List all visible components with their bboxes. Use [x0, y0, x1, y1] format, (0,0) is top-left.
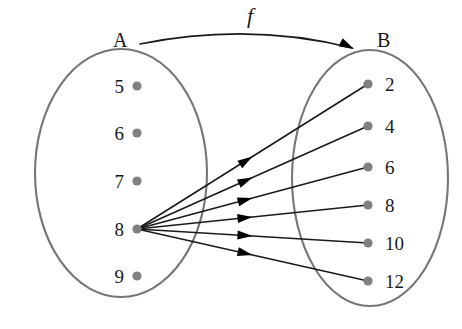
element-dot-a	[132, 81, 141, 90]
mapping-arrowhead	[237, 213, 253, 224]
element-dot-b	[363, 121, 372, 130]
element-label-b: 6	[385, 158, 395, 177]
element-dot-a	[132, 224, 141, 233]
mapping-arrowhead	[237, 153, 254, 169]
element-label-a: 5	[115, 77, 125, 96]
element-dot-a	[132, 271, 141, 280]
function-arrow-layer	[140, 34, 356, 53]
element-label-b: 12	[385, 272, 404, 291]
mapping-lines-layer	[137, 84, 368, 281]
mapping-arrowhead	[237, 231, 253, 241]
set-outline-b	[292, 50, 448, 306]
function-arrowhead	[339, 38, 356, 53]
element-dot-a	[132, 128, 141, 137]
element-label-a: 7	[115, 172, 125, 191]
mapping-arrowhead	[237, 173, 254, 187]
function-name-label: f	[247, 5, 253, 27]
element-label-a: 9	[115, 267, 125, 286]
set-label-b: B	[377, 30, 390, 50]
element-dot-a	[132, 176, 141, 185]
element-label-a: 6	[115, 124, 125, 143]
element-label-b: 10	[385, 234, 404, 253]
element-label-b: 4	[385, 117, 395, 136]
function-mapping-diagram: AB5678924681012f	[0, 0, 462, 329]
element-label-a: 8	[115, 220, 125, 239]
mapping-arrowhead	[237, 247, 254, 259]
element-dot-b	[363, 238, 372, 247]
mapping-arrowhead	[237, 194, 254, 207]
function-arrow-curve	[140, 34, 352, 48]
set-label-a: A	[113, 30, 127, 50]
element-dot-b	[363, 200, 372, 209]
element-dot-b	[363, 276, 372, 285]
element-dot-b	[363, 162, 372, 171]
element-label-b: 8	[385, 196, 395, 215]
element-dot-b	[363, 79, 372, 88]
element-label-b: 2	[385, 75, 395, 94]
